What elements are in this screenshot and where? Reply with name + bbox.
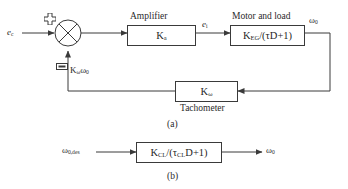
tachometer-block: Kω <box>175 81 238 102</box>
tachometer-title: Tachometer <box>180 104 225 114</box>
amplifier-title: Amplifier <box>130 12 167 22</box>
input-signal-label-a: ec <box>7 28 13 38</box>
motor-block: KEG/(τD+1) <box>230 25 305 46</box>
plus-sign-icon <box>44 11 56 23</box>
motor-title: Motor and load <box>232 12 291 22</box>
feedback-signal-label: Kωω0 <box>70 66 89 76</box>
amplifier-gain-label: Ka <box>156 30 166 41</box>
closed-loop-block: KCL/(τCLD+1) <box>136 142 222 163</box>
caption-a: (a) <box>167 120 178 130</box>
tachometer-gain-label: Kω <box>201 86 213 97</box>
mid-signal-label: ei <box>202 20 208 30</box>
input-signal-label-b: ω0,des <box>62 146 80 156</box>
motor-transfer-label: KEG/(τD+1) <box>243 30 292 41</box>
amplifier-block: Ka <box>127 25 196 46</box>
output-signal-label-a: ω0 <box>309 16 318 26</box>
output-signal-label-b: ω0 <box>266 146 275 156</box>
block-diagram-figure: ec Amplifier Ka ei Motor and load KEG/(τ… <box>0 0 348 189</box>
closed-loop-transfer-label: KCL/(τCLD+1) <box>150 147 207 158</box>
minus-sign-icon <box>56 56 68 63</box>
caption-b: (b) <box>167 172 178 182</box>
